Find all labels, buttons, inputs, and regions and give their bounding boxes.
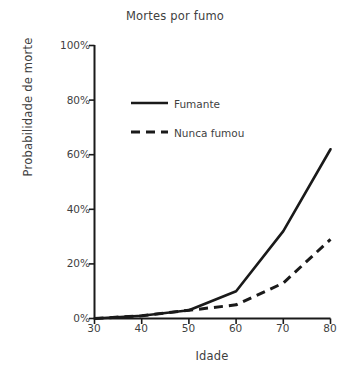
plot-area [0,0,350,381]
chart-figure: Mortes por fumo Probabilidade de morte I… [0,0,350,381]
series-line-nunca-fumou [95,239,331,318]
series-line-fumante [95,149,331,318]
